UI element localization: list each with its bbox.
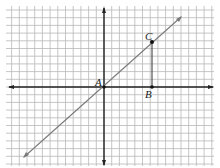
- label-b: B: [145, 88, 152, 100]
- point-a: [102, 85, 106, 89]
- y-axis-down-arrow-icon: [102, 160, 106, 166]
- x-axis-right-arrow-icon: [208, 85, 214, 89]
- label-c: C: [145, 30, 153, 42]
- coordinate-plane: A B C: [0, 0, 220, 168]
- x-axis-left-arrow-icon: [8, 85, 14, 89]
- label-a: A: [94, 76, 102, 88]
- grid-lines: [6, 6, 214, 166]
- x-axis: [8, 85, 214, 89]
